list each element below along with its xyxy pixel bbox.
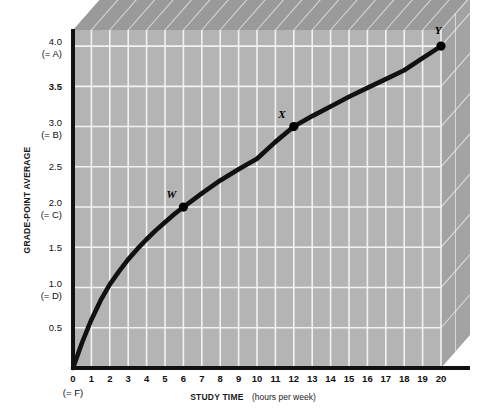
y-tick-label-4.0: 4.0 — [49, 36, 62, 47]
x-tick-label-15: 15 — [344, 373, 355, 384]
x-axis-title: STUDY TIME (hours per week) — [190, 386, 316, 403]
x-tick-label-18: 18 — [399, 373, 410, 384]
x-tick-label-19: 19 — [417, 373, 428, 384]
x-origin-sublabel: (= F) — [63, 387, 83, 398]
x-tick-label-6: 6 — [181, 373, 186, 384]
y-tick-label-0.5: 0.5 — [49, 322, 62, 333]
y-tick-sublabel-4.0: (= A) — [42, 48, 62, 59]
x-tick-label-5: 5 — [162, 373, 168, 384]
y-tick-label-1.5: 1.5 — [49, 242, 62, 253]
y-tick-label-3.0: 3.0 — [49, 117, 62, 128]
data-point-label-x: X — [277, 108, 286, 120]
y-tick-sublabel-2.0: (= C) — [41, 209, 62, 220]
y-tick-label-2.5: 2.5 — [49, 161, 62, 172]
x-tick-label-4: 4 — [144, 373, 150, 384]
y-axis-tick-labels: 0.51.0(= D)1.52.0(= C)2.53.0(= B)3.54.0(… — [41, 36, 63, 333]
x-tick-label-12: 12 — [289, 373, 300, 384]
x-tick-label-3: 3 — [126, 373, 131, 384]
x-tick-label-16: 16 — [362, 373, 373, 384]
x-tick-label-8: 8 — [218, 373, 223, 384]
y-tick-label-2.0: 2.0 — [49, 197, 62, 208]
x-tick-label-10: 10 — [252, 373, 263, 384]
y-tick-sublabel-1.0: (= D) — [41, 290, 62, 301]
data-point-marker-x — [289, 122, 298, 131]
x-tick-label-14: 14 — [325, 373, 336, 384]
data-point-label-w: W — [167, 188, 178, 200]
x-tick-label-20: 20 — [436, 373, 447, 384]
x-axis-title-sub: (hours per week) — [252, 392, 316, 402]
x-tick-label-13: 13 — [307, 373, 318, 384]
y-tick-sublabel-3.0: (= B) — [41, 129, 62, 140]
chart-canvas: WXY 0.51.0(= D)1.52.0(= C)2.53.0(= B)3.5… — [0, 0, 489, 415]
y-axis-title: GRADE-POINT AVERAGE — [22, 147, 32, 254]
data-point-marker-w — [179, 202, 188, 211]
y-tick-label-1.0: 1.0 — [49, 278, 62, 289]
data-point-marker-y — [436, 41, 445, 50]
grade-point-average-chart: WXY 0.51.0(= D)1.52.0(= C)2.53.0(= B)3.5… — [0, 0, 489, 415]
x-axis-title-main: STUDY TIME — [190, 392, 243, 402]
x-tick-label-9: 9 — [236, 373, 241, 384]
x-tick-label-2: 2 — [107, 373, 112, 384]
y-tick-label-3.5: 3.5 — [49, 81, 63, 92]
x-tick-label-7: 7 — [199, 373, 204, 384]
x-tick-label-11: 11 — [270, 373, 281, 384]
x-tick-label-1: 1 — [89, 373, 95, 384]
x-tick-label-17: 17 — [381, 373, 392, 384]
x-tick-label-0: 0 — [70, 373, 75, 384]
